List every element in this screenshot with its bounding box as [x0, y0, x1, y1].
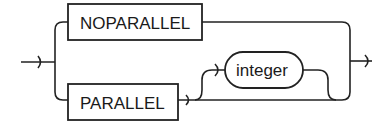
- keyword-noparallel[interactable]: NOPARALLEL: [68, 4, 202, 40]
- entry-arrow: [21, 56, 55, 68]
- svg-text:PARALLEL: PARALLEL: [80, 94, 165, 113]
- parameter-integer[interactable]: integer: [225, 52, 303, 88]
- syntax-diagram: NOPARALLEL PARALLEL integer: [0, 0, 391, 131]
- exit-arrow: [350, 55, 372, 67]
- branch-split: [55, 22, 68, 100]
- parallel-path: [178, 95, 342, 105]
- svg-text:NOPARALLEL: NOPARALLEL: [80, 14, 190, 33]
- keyword-parallel[interactable]: PARALLEL: [68, 84, 178, 120]
- svg-text:integer: integer: [236, 61, 288, 80]
